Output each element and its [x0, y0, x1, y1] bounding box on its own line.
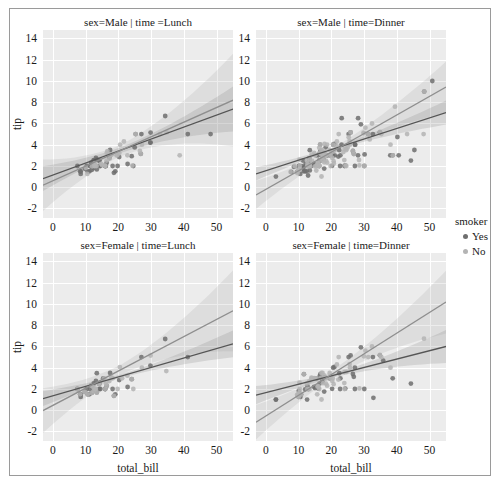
scatter-point	[307, 148, 312, 153]
legend-entry-yes[interactable]: Yes	[455, 230, 488, 243]
regression-confidence-band	[256, 62, 446, 209]
scatter-point	[356, 116, 361, 121]
scatter-point	[316, 384, 321, 389]
scatter-point	[274, 397, 279, 402]
scatter-point	[366, 355, 371, 360]
scatter-point	[371, 355, 376, 360]
scatter-point	[163, 337, 168, 342]
y-tick-label: 0	[9, 181, 37, 193]
y-tick-label: 2	[9, 160, 37, 172]
y-tick-label: 12	[226, 277, 250, 289]
scatter-point	[351, 149, 356, 154]
panel-plot-area	[256, 253, 446, 441]
y-tick-label: 2	[9, 383, 37, 395]
scatter-point	[422, 336, 427, 341]
scatter-point	[297, 164, 302, 169]
y-tick-label: 2	[226, 160, 250, 172]
plot-panel-male-dinner[interactable]	[256, 30, 446, 218]
legend-entries: YesNo	[455, 230, 488, 258]
scatter-point	[335, 139, 340, 144]
panel-title-3: sex=Female | time=Dinner	[256, 239, 446, 252]
scatter-point	[93, 387, 98, 392]
panel-plot-area	[43, 253, 233, 441]
x-tick-label: 0	[254, 221, 278, 233]
scatter-point	[325, 142, 330, 147]
x-tick-label: 20	[319, 221, 343, 233]
scatter-point	[208, 132, 213, 137]
scatter-point	[318, 142, 323, 147]
scatter-point	[104, 381, 109, 386]
legend-entry-no[interactable]: No	[455, 245, 488, 258]
scatter-point	[133, 132, 138, 137]
x-tick-label: 30	[139, 444, 163, 456]
x-tick-label: 0	[41, 444, 65, 456]
scatter-point	[115, 153, 120, 158]
legend-entry-label: No	[472, 245, 485, 258]
y-tick-label: 0	[226, 404, 250, 416]
regression-line	[43, 344, 233, 399]
scatter-point	[344, 148, 349, 153]
y-tick-label: 4	[9, 139, 37, 151]
scatter-point	[304, 169, 309, 174]
scatter-point	[362, 164, 367, 169]
scatter-point	[314, 168, 319, 173]
scatter-point	[139, 132, 144, 137]
legend: smoker YesNo	[455, 215, 488, 258]
scatter-point	[348, 130, 353, 135]
scatter-point	[319, 397, 324, 402]
scatter-point	[393, 104, 398, 109]
x-tick-label: 50	[418, 444, 442, 456]
scatter-point	[371, 395, 376, 400]
y-tick-label: 10	[226, 75, 250, 87]
plot-panel-female-lunch[interactable]	[43, 253, 233, 441]
legend-marker-icon	[463, 234, 468, 239]
scatter-point	[422, 89, 427, 94]
x-tick-label: 40	[385, 221, 409, 233]
x-tick-label: 20	[106, 444, 130, 456]
scatter-point	[110, 387, 115, 392]
y-axis-label-top: tip	[11, 109, 23, 139]
y-tick-label: -2	[9, 425, 37, 437]
scatter-point	[112, 170, 117, 175]
scatter-point	[85, 172, 90, 177]
scatter-point	[353, 387, 358, 392]
panel-title-0: sex=Male | time =Lunch	[43, 16, 233, 29]
scatter-point	[148, 130, 153, 135]
scatter-point	[138, 149, 143, 154]
scatter-point	[331, 142, 336, 147]
scatter-point	[412, 148, 417, 153]
scatter-point	[130, 163, 135, 168]
scatter-point	[129, 154, 134, 159]
y-tick-label: 12	[9, 54, 37, 66]
x-axis-label-left: total_bill	[43, 462, 233, 474]
y-tick-label: -2	[9, 202, 37, 214]
scatter-point	[115, 164, 120, 169]
x-tick-label: 30	[352, 444, 376, 456]
scatter-point	[421, 132, 426, 137]
scatter-point	[292, 164, 297, 169]
scatter-point	[163, 114, 168, 119]
scatter-point	[274, 174, 279, 179]
scatter-point	[319, 174, 324, 179]
scatter-point	[122, 139, 127, 144]
scatter-point	[378, 353, 383, 358]
scatter-point	[357, 386, 362, 391]
regression-line	[256, 113, 446, 174]
x-tick-label: 30	[352, 221, 376, 233]
y-tick-label: 6	[226, 340, 250, 352]
plot-panel-female-dinner[interactable]	[256, 253, 446, 441]
scatter-point	[359, 122, 364, 127]
scatter-point	[322, 389, 327, 394]
y-tick-label: 8	[9, 96, 37, 108]
scatter-point	[357, 163, 362, 168]
scatter-point	[388, 142, 393, 147]
scatter-point	[112, 393, 117, 398]
scatter-point	[125, 162, 130, 167]
scatter-point	[325, 160, 330, 165]
plot-panel-male-lunch[interactable]	[43, 30, 233, 218]
scatter-point	[92, 164, 97, 169]
scatter-point	[388, 365, 393, 370]
x-tick-label: 40	[385, 444, 409, 456]
scatter-point	[330, 386, 335, 391]
scatter-point	[322, 166, 327, 171]
